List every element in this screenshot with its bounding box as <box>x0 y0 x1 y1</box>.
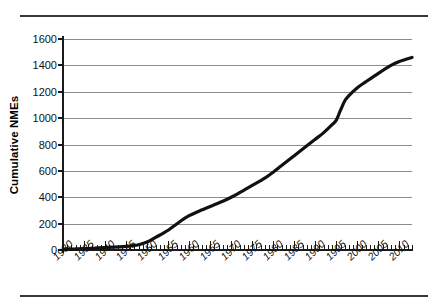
chart-figure: 02004006008001000120014001600 Cumulative… <box>0 0 446 304</box>
series-line-cumulative-nmes <box>0 0 446 304</box>
series-path <box>63 57 412 249</box>
